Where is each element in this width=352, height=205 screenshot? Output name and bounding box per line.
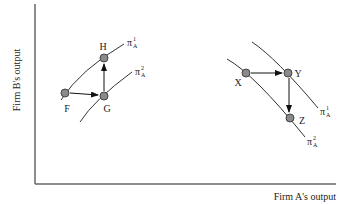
svg-text:A: A	[141, 72, 146, 78]
point-g	[100, 92, 108, 100]
point-h	[100, 54, 108, 62]
left-curve-label-pi1: π A 1	[127, 36, 138, 49]
label-y: Y	[294, 68, 301, 79]
svg-text:π: π	[135, 66, 140, 77]
label-h: H	[99, 41, 106, 52]
isoprofit-diagram: Firm B's output Firm A's output F G H π …	[0, 0, 352, 205]
point-f	[61, 89, 69, 97]
svg-text:1: 1	[133, 36, 136, 42]
svg-text:A: A	[326, 112, 331, 118]
right-isoprofit-curve-pi2	[227, 59, 305, 137]
svg-text:2: 2	[141, 65, 144, 71]
svg-text:π: π	[307, 136, 312, 147]
left-curve-label-pi2: π A 2	[135, 65, 146, 78]
svg-text:A: A	[313, 142, 318, 148]
label-x: X	[234, 77, 242, 88]
right-curve-label-pi2: π A 2	[307, 135, 318, 148]
svg-text:1: 1	[326, 105, 329, 111]
point-x	[242, 69, 250, 77]
svg-text:A: A	[133, 43, 138, 49]
svg-text:π: π	[320, 106, 325, 117]
x-axis-label: Firm A's output	[274, 191, 337, 202]
right-curve-label-pi1: π A 1	[320, 105, 331, 118]
svg-text:2: 2	[313, 135, 316, 141]
svg-text:π: π	[127, 37, 132, 48]
label-g: G	[103, 103, 110, 114]
point-y	[284, 69, 292, 77]
arrow-f-to-g	[70, 93, 98, 95]
point-z	[286, 114, 294, 122]
label-f: F	[64, 103, 70, 114]
left-isoprofit-curve-pi1	[61, 44, 124, 100]
y-axis-label: Firm B's output	[11, 49, 22, 112]
label-z: Z	[299, 115, 305, 126]
